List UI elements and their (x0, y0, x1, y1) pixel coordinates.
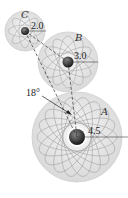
angle-label: 18° (26, 87, 40, 98)
gear-b-label: B (74, 32, 82, 43)
gear-a-label: A (100, 106, 108, 117)
gear-c-label: C (21, 9, 29, 20)
gear-c-radius: 2.0 (31, 20, 44, 31)
gear-c: C 2.0 (5, 9, 46, 51)
gear-train-diagram: A 4.5 B 3.0 C 2.0 (0, 0, 128, 198)
gear-b-radius: 3.0 (74, 50, 87, 61)
gear-a: A 4.5 (32, 92, 128, 182)
gear-a-radius: 4.5 (88, 125, 101, 136)
